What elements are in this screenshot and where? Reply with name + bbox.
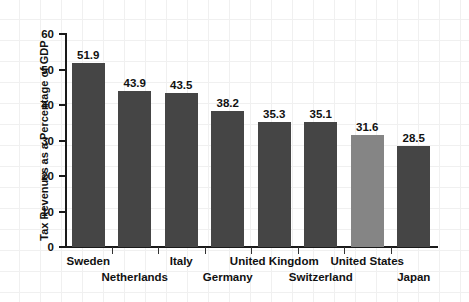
plot-area: 51.943.943.538.235.335.131.628.5 [65, 34, 437, 247]
bar: 43.5 [165, 93, 198, 247]
bar-value-label: 43.5 [170, 79, 192, 91]
y-axis-tick-label: 40 [41, 99, 54, 111]
bar: 38.2 [211, 111, 244, 247]
x-axis-tick-mark [112, 247, 113, 254]
x-axis-tick-mark [205, 247, 206, 254]
bar-value-label: 31.6 [356, 121, 378, 133]
bar: 51.9 [72, 63, 105, 247]
y-axis-tick-label: 30 [41, 135, 54, 147]
x-axis-category-label: Netherlands [102, 271, 168, 283]
x-axis-tick-mark [391, 247, 392, 254]
bar-value-label: 35.3 [263, 108, 285, 120]
x-axis-category-label: Sweden [67, 255, 110, 267]
bar: 31.6 [351, 135, 384, 247]
bar-value-label: 35.1 [310, 108, 332, 120]
y-axis-tick-label: 50 [41, 64, 54, 76]
bar: 35.1 [304, 122, 337, 247]
bar: 35.3 [258, 122, 291, 247]
x-axis-category-label: Italy [170, 255, 193, 267]
y-axis-tick-label: 10 [41, 206, 54, 218]
bar: 28.5 [397, 146, 430, 247]
bar-value-label: 51.9 [77, 49, 99, 61]
bar-value-label: 43.9 [124, 77, 146, 89]
bar-chart-figure: Tax Revenues as a Percentage of GDP 6050… [0, 0, 469, 302]
x-axis-tick-mark [158, 247, 159, 254]
y-axis-tick-label: 60 [41, 28, 54, 40]
x-axis-category-label: United Kingdom [230, 255, 319, 267]
x-axis-tick-mark [344, 247, 345, 254]
bar: 43.9 [118, 91, 151, 247]
x-axis-category-label: Japan [397, 271, 430, 283]
x-axis-tick-mark [251, 247, 252, 254]
x-axis-tick-mark [298, 247, 299, 254]
bar-value-label: 28.5 [403, 132, 425, 144]
y-axis-tick-label: 0 [48, 241, 54, 253]
x-axis-category-label: Switzerland [289, 271, 353, 283]
x-axis-category-label: United States [331, 255, 405, 267]
bar-value-label: 38.2 [217, 97, 239, 109]
x-axis-category-label: Germany [203, 271, 253, 283]
y-axis-tick-label: 20 [41, 170, 54, 182]
